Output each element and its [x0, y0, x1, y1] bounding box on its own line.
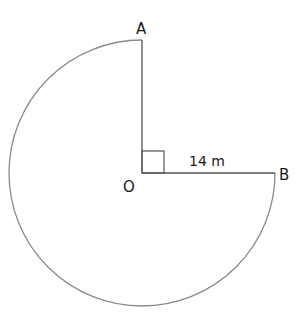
label-a: A	[136, 20, 147, 38]
label-o: O	[123, 178, 135, 196]
radius-label: 14 m	[189, 153, 225, 169]
label-b: B	[279, 166, 289, 184]
right-angle-marker	[142, 151, 164, 173]
sector-diagram: A O B 14 m	[0, 0, 297, 317]
